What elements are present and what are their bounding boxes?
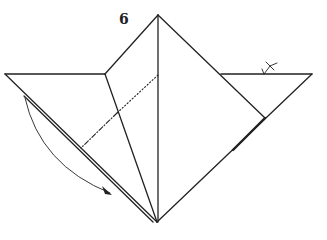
- fold-arrow: [25, 98, 110, 193]
- valley-fold-line: [117, 75, 158, 113]
- thick-edge: [233, 118, 265, 150]
- turn-over-symbol-icon: [262, 62, 277, 74]
- mountain-fold-line: [81, 113, 117, 148]
- origami-diagram: [0, 0, 327, 240]
